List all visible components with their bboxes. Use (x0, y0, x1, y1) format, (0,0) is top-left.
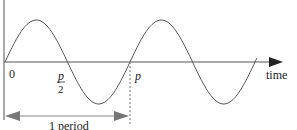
period-span-left-arrowhead (5, 111, 20, 121)
period-label: p (134, 69, 141, 83)
origin-label: 0 (9, 67, 15, 81)
time-axis-arrowhead (269, 57, 283, 67)
sine-wave-diagram: 0 p 2 p time 1 period (0, 0, 297, 130)
diagram-canvas: 0 p 2 p time 1 period (0, 0, 297, 130)
half-period-numerator: p (57, 69, 64, 83)
half-period-denominator: 2 (58, 83, 64, 95)
period-span-right-arrowhead (114, 111, 129, 121)
period-span-label: 1 period (49, 119, 89, 130)
time-axis-label: time (266, 68, 287, 82)
